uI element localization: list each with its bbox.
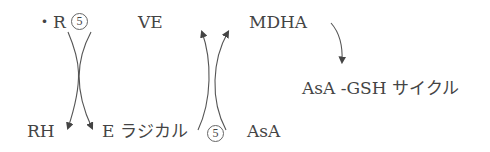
cross-arrows-middle <box>198 32 228 130</box>
cross-arrows-left <box>68 32 92 128</box>
arrow-to-cycle <box>331 23 342 62</box>
circled-number-bottom: 5 <box>207 125 224 142</box>
label-asa: AsA <box>247 121 280 141</box>
diagram-canvas: ・R 5 VE MDHA AsA -GSH サイクル RH E ラジカル 5 A… <box>0 0 490 152</box>
label-e-radical: E ラジカル <box>102 121 188 141</box>
label-ve: VE <box>138 12 163 32</box>
label-rh: RH <box>27 121 55 141</box>
circled-number-top: 5 <box>71 13 88 30</box>
label-asa-gsh-cycle: AsA -GSH サイクル <box>302 78 459 98</box>
label-mdha: MDHA <box>249 12 307 32</box>
label-radical-r: ・R <box>36 12 66 32</box>
